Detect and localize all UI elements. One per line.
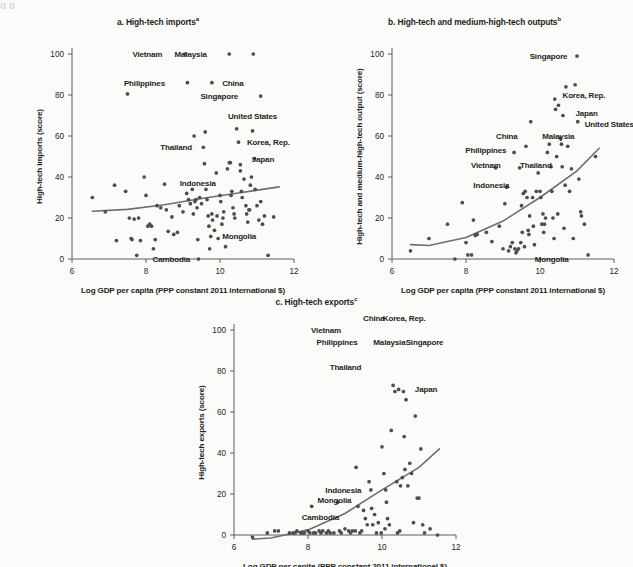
data-point <box>251 129 255 133</box>
data-point <box>501 247 505 251</box>
data-point <box>509 245 513 249</box>
data-point <box>410 472 414 476</box>
country-label-singapore: Singapore <box>406 338 444 347</box>
data-point <box>215 214 219 218</box>
country-label-united-states: United States <box>228 112 278 121</box>
country-label-mongolia: Mongolia <box>535 255 570 264</box>
panel-b-title-text: b. High-tech and medium-high-tech output… <box>388 17 557 27</box>
country-label-indonesia: Indonesia <box>325 486 362 495</box>
data-point <box>551 216 555 220</box>
x-tick-label: 8 <box>144 267 149 276</box>
data-point <box>265 531 269 535</box>
y-tick-label: 100 <box>370 50 384 59</box>
data-point <box>213 228 217 232</box>
data-point <box>369 488 373 492</box>
data-point <box>541 212 545 216</box>
y-tick-label: 20 <box>217 490 227 499</box>
data-point <box>367 480 371 484</box>
data-point <box>399 484 403 488</box>
data-point <box>524 144 528 148</box>
data-point <box>402 435 406 439</box>
y-tick-label: 100 <box>212 326 226 335</box>
data-point <box>253 187 257 191</box>
country-label-vietnam: Vietnam <box>132 50 162 59</box>
data-point <box>277 529 281 533</box>
data-point <box>409 249 413 253</box>
data-point <box>152 247 156 251</box>
data-point <box>534 190 538 194</box>
data-point <box>321 529 325 533</box>
country-label-japan: Japan <box>575 109 598 118</box>
data-point <box>200 202 204 206</box>
country-label-indonesia: Indonesia <box>473 181 510 190</box>
y-tick-label: 40 <box>375 173 385 182</box>
x-tick-label: 10 <box>215 267 225 276</box>
data-point <box>553 97 557 101</box>
data-point <box>475 233 479 237</box>
data-point <box>142 175 146 179</box>
data-point <box>198 196 202 200</box>
data-point <box>412 521 416 525</box>
country-label-malaysia: Malaysia <box>373 338 406 347</box>
data-point <box>232 212 236 216</box>
data-point <box>210 81 214 85</box>
data-point <box>207 224 211 228</box>
data-point <box>310 504 314 508</box>
panel-b-trend-line <box>411 148 600 245</box>
data-point <box>128 216 132 220</box>
data-point <box>219 200 223 204</box>
data-point <box>503 202 507 206</box>
data-point <box>413 414 417 418</box>
data-point <box>186 81 190 85</box>
data-point <box>210 212 214 216</box>
data-point <box>273 529 277 533</box>
data-point <box>343 527 347 531</box>
data-point <box>406 484 410 488</box>
x-tick-label: 12 <box>609 267 619 276</box>
data-point <box>153 238 157 242</box>
y-tick-label: 60 <box>217 408 227 417</box>
data-point <box>436 533 440 537</box>
data-point <box>389 429 393 433</box>
country-label-japan: Japan <box>415 385 438 394</box>
data-point <box>397 388 401 392</box>
data-point <box>594 155 598 159</box>
data-point <box>579 210 583 214</box>
panel-c-x-axis-title: Log GDP per capita (PPP constant 2011 in… <box>243 562 447 567</box>
x-tick-label: 6 <box>70 267 75 276</box>
data-point <box>206 214 210 218</box>
panel-c-title-footnote: c <box>354 296 357 302</box>
panel-a-title-footnote: a <box>196 16 199 22</box>
data-point <box>423 531 427 535</box>
panel-a-country-labels: VietnamMalaysiaPhilippinesChinaSingapore… <box>124 50 290 264</box>
y-tick-label: 20 <box>55 214 65 223</box>
panel-c-data-points <box>251 384 440 539</box>
data-point <box>364 517 368 521</box>
panel-a-trend-line <box>92 187 279 211</box>
data-point <box>214 171 218 175</box>
panel-c-country-labels: VietnamPhilippinesChinaKorea, Rep.Malays… <box>302 314 444 522</box>
country-label-japan: Japan <box>252 155 275 164</box>
data-point <box>497 224 501 228</box>
data-point <box>177 204 181 208</box>
data-point <box>288 531 292 535</box>
data-point <box>533 243 537 247</box>
data-point <box>373 513 377 517</box>
country-label-china: China <box>496 132 518 141</box>
data-point <box>556 212 560 216</box>
data-point <box>221 216 225 220</box>
data-point <box>384 488 388 492</box>
y-tick-label: 80 <box>217 367 227 376</box>
y-tick-label: 40 <box>217 449 227 458</box>
data-point <box>404 398 408 402</box>
panel-c-plot: 681012020406080100Log GDP per capita (PP… <box>158 296 475 564</box>
data-point <box>360 529 364 533</box>
data-point <box>564 85 568 89</box>
data-point <box>490 240 494 244</box>
y-tick-label: 60 <box>375 132 385 141</box>
data-point <box>577 177 581 181</box>
panel-b-data-points <box>409 54 598 261</box>
data-point <box>550 190 554 194</box>
data-point <box>460 201 464 205</box>
data-point <box>561 114 565 118</box>
